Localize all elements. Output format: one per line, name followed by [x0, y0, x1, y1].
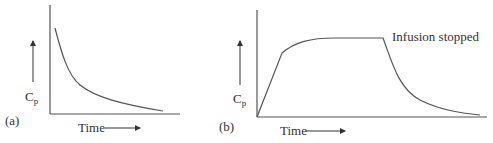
panel-b-x-label: Time — [280, 124, 307, 137]
panel-b-infusion-curve — [257, 38, 480, 117]
panel-b-y-label: Cp — [233, 92, 246, 105]
panel-b-y-label-sub: p — [242, 98, 247, 108]
panel-b-y-label-main: C — [233, 91, 242, 106]
panel-b-label: (b) — [219, 120, 234, 133]
panel-a-y-label-main: C — [25, 89, 34, 104]
panel-a-y-label: Cp — [25, 90, 38, 103]
panel-a-y-label-sub: p — [34, 96, 39, 106]
panel-a — [33, 5, 180, 128]
panel-a-label: (a) — [5, 114, 19, 127]
panel-a-x-label: Time — [78, 121, 105, 134]
panel-a-decay-curve — [55, 28, 163, 111]
infusion-stopped-annotation: Infusion stopped — [392, 30, 479, 43]
figure — [0, 0, 493, 143]
